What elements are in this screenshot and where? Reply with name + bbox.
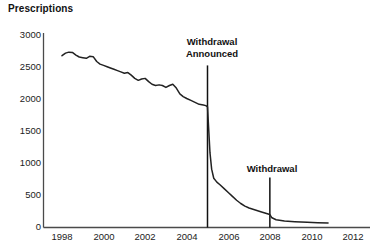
marker-lines-group [208, 65, 270, 227]
chart-container: Prescriptions 3000 2500 2000 1500 1000 5… [0, 0, 376, 250]
plot-area [0, 0, 376, 250]
prescriptions-data-line [62, 52, 328, 223]
